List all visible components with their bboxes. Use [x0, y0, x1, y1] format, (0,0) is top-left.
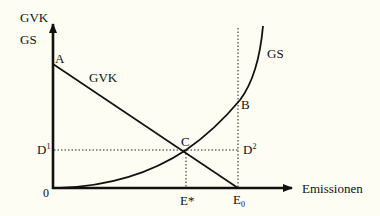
point-d2-label: D2 — [243, 142, 256, 157]
point-c-label: C — [181, 134, 190, 149]
point-e0-label: E0 — [233, 192, 245, 209]
marginal-cost-damage-diagram: GVK GS 0 Emissionen GVK GS A B C D1 D2 E… — [0, 0, 380, 216]
point-d1-label: D1 — [37, 142, 50, 157]
gvk-curve — [53, 64, 238, 188]
guide-lines — [54, 28, 238, 188]
point-e-star-label: E* — [180, 193, 194, 208]
x-axis-label: Emissionen — [302, 181, 363, 196]
point-b-label: B — [241, 97, 250, 112]
point-a-label: A — [55, 51, 65, 66]
y-axis-label-gvk: GVK — [20, 10, 49, 25]
gvk-curve-label: GVK — [89, 70, 118, 85]
gs-curve — [60, 26, 263, 188]
gs-curve-label: GS — [267, 46, 284, 61]
origin-label: 0 — [43, 186, 49, 200]
y-axis-label-gs: GS — [20, 32, 37, 47]
